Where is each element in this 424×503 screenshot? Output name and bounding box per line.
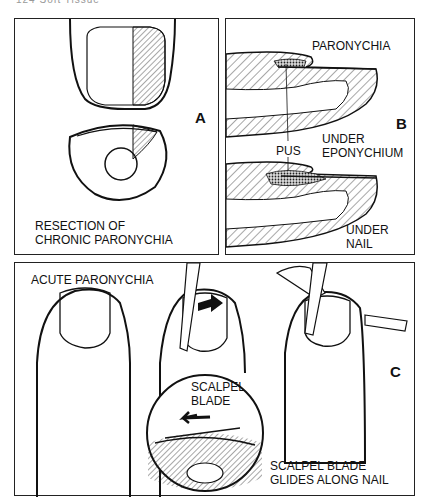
panel-b-pus-locations: PARONYCHIA B PUS UNDER EPONYCHIUM UNDER … [225,18,415,255]
label-under-eponychium-2: EPONYCHIUM [322,147,403,160]
panel-letter-a: A [195,109,206,126]
label-pus: PUS [276,145,301,158]
panel-letter-c: C [390,363,401,380]
caption-a-line1: RESECTION OF [35,220,125,233]
pus-cross-section-illustration [226,19,416,256]
label-glides-2: GLIDES ALONG NAIL [270,474,389,487]
label-paronychia: PARONYCHIA [312,40,390,53]
label-glides-1: SCALPEL BLADE [270,460,366,473]
label-under-nail-1: UNDER [346,224,389,237]
label-acute-paronychia: ACUTE PARONYCHIA [31,274,153,287]
page-header: 124 Soft Tissue [16,0,100,5]
panel-a-resection: A RESECTION OF CHRONIC PARONYCHIA [14,18,219,255]
panel-letter-b: B [396,115,407,132]
label-under-nail-2: NAIL [346,238,373,251]
panel-c-acute-drainage: ACUTE PARONYCHIA SCALPEL BLADE C SCALPEL… [14,262,415,496]
caption-a-line2: CHRONIC PARONYCHIA [35,234,173,247]
label-under-eponychium-1: UNDER [322,133,365,146]
label-scalpel-blade-1: SCALPEL [191,381,245,394]
label-scalpel-blade-2: BLADE [191,395,230,408]
